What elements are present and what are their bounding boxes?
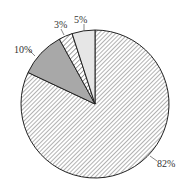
slice-label: 82% [157,158,175,169]
slice-label: 3% [54,19,67,30]
pie-slices [21,30,169,178]
pie-chart: 82%10%3%5% [0,0,186,189]
leader-line [150,156,157,161]
slice-label: 10% [14,44,32,55]
slice-label: 5% [74,14,87,25]
